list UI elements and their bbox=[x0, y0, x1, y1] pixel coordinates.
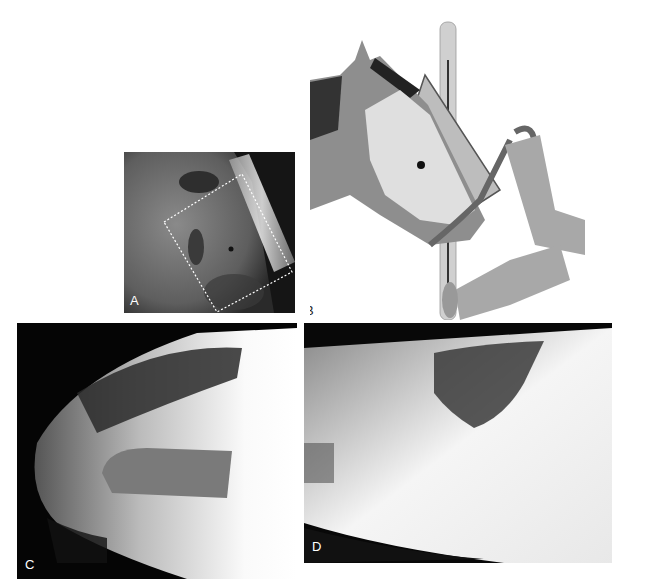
panel-label-b: B bbox=[310, 304, 314, 317]
panel-c-radiograph: C bbox=[17, 323, 297, 579]
horse-head-photo bbox=[124, 152, 295, 313]
panel-b-illustration: B bbox=[310, 20, 610, 320]
positioning-illustration bbox=[310, 20, 610, 320]
panel-a-photo: A bbox=[124, 152, 295, 313]
panel-label-a: A bbox=[130, 294, 139, 307]
panel-label-c: C bbox=[25, 558, 34, 571]
panel-d-radiograph: D bbox=[304, 323, 612, 563]
panel-label-d: D bbox=[312, 540, 321, 553]
skull-radiograph-rostral bbox=[17, 323, 297, 579]
skull-radiograph-caudal bbox=[304, 323, 612, 563]
